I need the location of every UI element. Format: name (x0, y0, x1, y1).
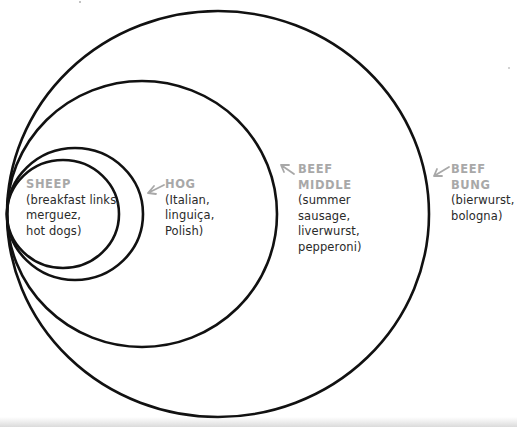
label-beef-bung-desc: (bierwurst, bologna) (451, 193, 514, 224)
casing-size-diagram: SHEEP (breakfast links, merguez, hot dog… (0, 0, 517, 427)
label-sheep-desc: (breakfast links, merguez, hot dogs) (26, 193, 120, 240)
arrow-down-left-icon (431, 165, 451, 179)
speck (508, 67, 510, 69)
label-beef-middle-name: BEEF MIDDLE (298, 162, 362, 193)
speck (79, 1, 81, 3)
arrow-up-left-icon (278, 162, 296, 176)
label-beef-bung: BEEF BUNG (bierwurst, bologna) (451, 162, 514, 224)
label-hog-name: HOG (165, 177, 214, 193)
label-beef-middle: BEEF MIDDLE (summer sausage, liverwurst,… (298, 162, 362, 255)
label-sheep: SHEEP (breakfast links, merguez, hot dog… (26, 177, 120, 239)
label-beef-middle-desc: (summer sausage, liverwurst, pepperoni) (298, 193, 362, 255)
page-edge-shadow (0, 417, 517, 427)
label-hog: HOG (Italian, linguiça, Polish) (165, 177, 214, 239)
label-beef-bung-name: BEEF BUNG (451, 162, 514, 193)
arrow-left-icon (144, 183, 166, 197)
label-hog-desc: (Italian, linguiça, Polish) (165, 193, 214, 240)
label-sheep-name: SHEEP (26, 177, 120, 193)
